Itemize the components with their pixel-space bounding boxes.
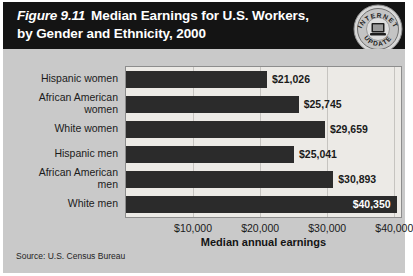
category-label-2: White women bbox=[2, 123, 118, 135]
bar-row[interactable]: $25,041 bbox=[126, 146, 401, 163]
bar-value-label: $25,041 bbox=[299, 148, 337, 160]
internet-update-seal[interactable]: INTERNET UPDATE bbox=[352, 3, 404, 55]
x-tick-30000: $30,000 bbox=[308, 222, 346, 234]
category-label-0: Hispanic women bbox=[2, 73, 118, 85]
figure-header: Figure 9.11Median Earnings for U.S. Work… bbox=[3, 2, 405, 49]
bar-value-label: $21,026 bbox=[272, 73, 310, 85]
source-note: Source: U.S. Census Bureau bbox=[16, 251, 125, 261]
bar-row[interactable]: $29,659 bbox=[126, 121, 401, 138]
x-tick-20000: $20,000 bbox=[241, 222, 279, 234]
category-label-line: African American bbox=[2, 167, 118, 179]
x-axis-tick-labels: $10,000$20,000$30,000$40,000 bbox=[6, 222, 402, 236]
bar-row[interactable]: $21,026 bbox=[126, 71, 401, 88]
category-axis-labels: Hispanic womenAfrican AmericanwomenWhite… bbox=[6, 66, 122, 218]
category-label-line: White men bbox=[2, 198, 118, 210]
bar-3[interactable] bbox=[126, 146, 294, 163]
category-label-line: Hispanic men bbox=[2, 148, 118, 160]
bar-1[interactable] bbox=[126, 96, 299, 113]
bar-row[interactable]: $30,893 bbox=[126, 171, 401, 188]
bar-row[interactable]: $40,350 bbox=[126, 196, 401, 213]
category-label-line: African American bbox=[2, 92, 118, 104]
seal-icon: INTERNET UPDATE bbox=[352, 3, 404, 55]
bar-value-label: $25,745 bbox=[304, 98, 342, 110]
bar-value-label: $29,659 bbox=[330, 123, 368, 135]
category-label-5: White men bbox=[2, 198, 118, 210]
figure-title-line2: by Gender and Ethnicity, 2000 bbox=[17, 26, 206, 41]
figure-title-line1: Median Earnings for U.S. Workers, bbox=[91, 8, 309, 23]
category-label-1: African Americanwomen bbox=[2, 92, 118, 115]
category-label-line: men bbox=[2, 179, 118, 191]
x-axis-title: Median annual earnings bbox=[125, 236, 402, 248]
figure-body: Hispanic womenAfrican AmericanwomenWhite… bbox=[3, 49, 405, 273]
bar-value-label: $40,350 bbox=[347, 198, 391, 210]
category-label-line: Hispanic women bbox=[2, 73, 118, 85]
bar-value-label: $30,893 bbox=[338, 173, 376, 185]
bars-layer: $21,026$25,745$29,659$25,041$30,893$40,3… bbox=[126, 67, 401, 217]
figure-title: Figure 9.11Median Earnings for U.S. Work… bbox=[17, 7, 347, 43]
bar-0[interactable] bbox=[126, 71, 267, 88]
bar-4[interactable] bbox=[126, 171, 333, 188]
x-tick-10000: $10,000 bbox=[174, 222, 212, 234]
bar-2[interactable] bbox=[126, 121, 325, 138]
category-label-3: Hispanic men bbox=[2, 148, 118, 160]
bar-row[interactable]: $25,745 bbox=[126, 96, 401, 113]
figure-number: Figure 9.11 bbox=[17, 8, 85, 23]
category-label-line: women bbox=[2, 104, 118, 116]
category-label-4: African Americanmen bbox=[2, 167, 118, 190]
category-label-line: White women bbox=[2, 123, 118, 135]
plot-area: $21,026$25,745$29,659$25,041$30,893$40,3… bbox=[125, 66, 402, 218]
figure-body-inner: Hispanic womenAfrican AmericanwomenWhite… bbox=[6, 52, 402, 270]
x-tick-40000: $40,000 bbox=[375, 222, 413, 234]
